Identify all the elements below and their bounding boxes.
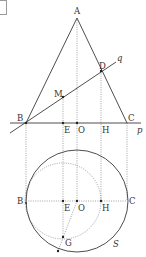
label-E: E [64,125,70,135]
label-B: B [17,113,23,123]
points [25,70,102,252]
point-B [25,122,27,124]
label-H-lower: H [102,203,109,213]
point-E [62,122,64,124]
label-C: C [128,113,135,123]
label-B-lower: B [17,196,23,206]
side-AB [26,18,77,123]
label-O: O [78,125,85,135]
point-O [76,122,78,124]
label-D: D [99,61,106,71]
label-G: G [65,238,72,248]
label-M: M [54,89,63,99]
label-q: q [117,53,123,63]
projection-lines [25,20,127,251]
label-H: H [102,125,109,135]
label-E-lower: E [64,203,70,213]
label-O-lower: O [78,203,85,213]
point-H-lower [100,200,102,202]
label-C-lower: C [129,196,136,206]
geometry-diagram: A B C D M E O H p q B C E O H G S [0,0,146,257]
label-A: A [73,6,81,16]
point-G-extension [57,250,59,252]
point-E-lower [62,200,64,202]
point-B-lower [25,202,27,204]
point-O-lower [76,200,78,202]
point-G [62,236,64,238]
label-S: S [113,239,119,249]
label-p: p [137,125,143,135]
